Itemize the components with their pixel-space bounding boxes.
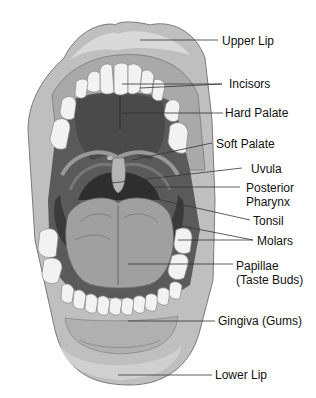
label-incisors: Incisors — [229, 77, 270, 91]
label-soft-palate: Soft Palate — [216, 137, 275, 151]
label-posterior-pharynx-line2: Pharynx — [246, 195, 290, 209]
label-tonsil: Tonsil — [253, 214, 284, 228]
label-hard-palate: Hard Palate — [225, 106, 288, 120]
label-upper-lip: Upper Lip — [222, 34, 274, 48]
label-gingiva: Gingiva (Gums) — [218, 314, 302, 328]
label-molars: Molars — [257, 234, 293, 248]
mouth-anatomy-diagram: Upper Lip Incisors Hard Palate Soft Pala… — [0, 0, 316, 398]
label-papillae-line1: Papillae — [236, 259, 279, 273]
label-posterior-pharynx-line1: Posterior — [246, 181, 294, 195]
label-lower-lip: Lower Lip — [215, 368, 267, 382]
label-papillae-line2: (Taste Buds) — [236, 273, 303, 287]
label-uvula: Uvula — [251, 162, 282, 176]
